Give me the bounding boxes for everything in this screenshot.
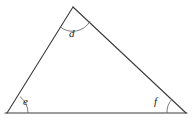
- angle-label-e: e: [23, 96, 28, 107]
- angle-label-f: f: [154, 96, 157, 107]
- triangle-drawing: [0, 0, 192, 121]
- triangle-side-right: [73, 7, 186, 113]
- angle-arc-f: [167, 99, 172, 113]
- triangle-figure: d e f: [0, 0, 192, 121]
- angle-arc-d: [60, 21, 90, 31]
- angle-label-d: d: [69, 28, 75, 39]
- triangle-side-left: [7, 7, 73, 113]
